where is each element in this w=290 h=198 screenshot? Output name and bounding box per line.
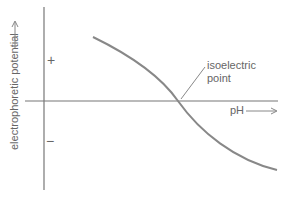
isoelectric-diagram: isoelectric point + − pH electrophoretic… bbox=[0, 0, 290, 198]
isoelectric-label-line2: point bbox=[207, 72, 231, 84]
isoelectric-leader-line bbox=[181, 67, 205, 99]
potential-curve bbox=[93, 37, 277, 170]
positive-sign: + bbox=[47, 52, 55, 68]
negative-sign: − bbox=[46, 133, 54, 149]
y-axis-label: electrophoretic potential bbox=[8, 33, 20, 150]
x-axis-label: pH bbox=[230, 104, 244, 116]
isoelectric-label-line1: isoelectric bbox=[207, 59, 256, 71]
